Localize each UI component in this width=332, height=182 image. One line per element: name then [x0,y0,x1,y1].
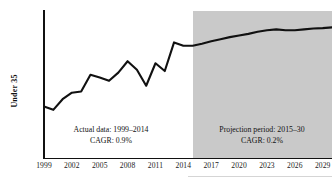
x-tick-label: 2026 [287,161,303,170]
x-tick-label: 2020 [231,161,247,170]
x-tick-label: 2014 [176,161,192,170]
x-tick-label: 2029 [315,161,331,170]
x-tick-label: 2023 [259,161,275,170]
annotation-projection-line1: Projection period: 2015–30 [192,124,332,135]
annotation-projection-line2: CAGR: 0.2% [192,135,332,146]
annotation-actual: Actual data: 1999–2014 CAGR: 0.9% [52,124,170,147]
x-tick-label: 1999 [36,161,52,170]
chart-container: Under 35 6,2006,0005,8005,6005,4005,2005… [0,0,332,182]
x-tick-label: 2005 [92,161,108,170]
x-tick-label: 2017 [203,161,219,170]
annotation-projection: Projection period: 2015–30 CAGR: 0.2% [192,124,332,147]
annotation-actual-line2: CAGR: 0.9% [52,135,170,146]
scan-artifact-band [188,176,332,177]
x-tick-label: 2002 [64,161,80,170]
x-tick-label: 2008 [120,161,136,170]
x-tick-label: 2011 [148,161,163,170]
y-axis-ticks: 6,2006,0005,8005,6005,4005,2005,0004,800… [0,0,332,182]
annotation-actual-line1: Actual data: 1999–2014 [52,124,170,135]
